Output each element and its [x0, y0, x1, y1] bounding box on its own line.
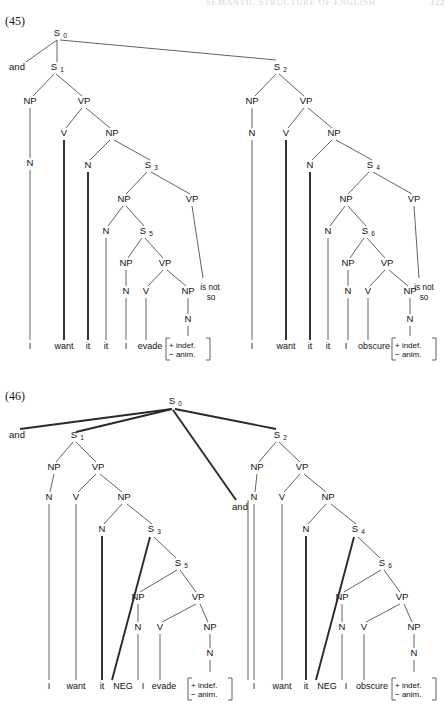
edge-NPobj-N-46-right	[308, 504, 326, 524]
node-NP-S3-45: NP	[117, 193, 130, 204]
node-NP-S2-45: NP	[245, 95, 258, 106]
featmatrix-row1-46-left: + indef.	[191, 681, 217, 690]
terminal-it-2-45: it	[104, 341, 109, 351]
node-NP-S1-45: NP	[23, 95, 36, 106]
node-VP-S5-46: VP	[192, 591, 205, 602]
terminal-it-1-45: it	[86, 341, 91, 351]
edge-NPobj-S4-46	[331, 504, 356, 524]
node-NP-obj-S2-45: NP	[327, 127, 340, 138]
edge-VPS6-NP	[389, 270, 408, 286]
terminal-obscure-45: obscure	[358, 341, 390, 351]
terminal-and-middle-46: and	[232, 501, 248, 512]
node-S5-45: S	[140, 225, 146, 236]
edge-NPobj-N-left	[90, 140, 110, 160]
edge-S3-NP	[126, 172, 147, 194]
node-S5-46: S	[175, 557, 181, 568]
node-N-I2-46-right: N	[339, 621, 346, 632]
node-S1-46: S	[71, 429, 77, 440]
node-V-obscure-46: V	[361, 621, 368, 632]
terminal-so-left-45: so	[207, 293, 216, 302]
terminal-I-1-right-45: I	[251, 341, 254, 351]
terminal-evade-45: evade	[138, 341, 163, 351]
edge-S4-NEG-46	[316, 537, 354, 680]
node-VP-S6-45: VP	[381, 257, 394, 268]
node-NP-S5-46: NP	[131, 591, 144, 602]
node-S6-subscript-45: 6	[371, 230, 375, 237]
terminal-I-1-45: I	[29, 341, 32, 351]
node-N-feat-46-right: N	[411, 647, 418, 658]
node-V-want-right-45: V	[283, 127, 290, 138]
featmatrix-bracket-left-close-45	[206, 338, 210, 360]
node-S3-45: S	[145, 159, 151, 170]
edge-VP-V-46-right	[284, 474, 300, 492]
edge-S4-S6-46	[358, 537, 380, 558]
node-NP-evadeobj-46: NP	[203, 621, 216, 632]
terminal-it-2-right-45: it	[326, 341, 331, 351]
node-NP-S4-45: NP	[339, 193, 352, 204]
edge-S5-NP	[128, 238, 142, 258]
node-V-obscure-45: V	[365, 285, 372, 296]
node-S0-45: S	[54, 27, 60, 38]
node-N-subj-46-left: N	[46, 491, 53, 502]
edge-S2-VP	[279, 74, 304, 96]
terminal-want-right-45: want	[275, 341, 296, 351]
node-V-want-45: V	[61, 127, 68, 138]
node-V-evade-46: V	[157, 621, 164, 632]
node-S2-45: S	[274, 61, 280, 72]
node-N-it-45: N	[85, 159, 92, 170]
node-VP-S6-46: VP	[396, 591, 409, 602]
terminal-I-2-46-right: I	[345, 681, 348, 691]
node-S0-subscript-46: 0	[178, 400, 182, 407]
node-S2-subscript-45: 2	[283, 66, 287, 73]
node-N-it-46-left: N	[99, 523, 106, 534]
edge-S3-VP	[151, 172, 190, 194]
node-N-S2-subj-45: N	[249, 127, 256, 138]
terminal-and-left-46: and	[9, 429, 25, 440]
terminal-so-right-45: so	[420, 293, 429, 302]
edge-VP-V-right1	[288, 108, 304, 128]
node-NP-S2-46: NP	[250, 461, 263, 472]
node-S6-subscript-46: 6	[388, 562, 392, 569]
featmatrix-row2-46-right: − anim.	[395, 690, 421, 699]
node-VP-S4-45: VP	[408, 193, 421, 204]
terminal-want-1-45: want	[53, 341, 74, 351]
edge-S5-NP-46	[140, 570, 177, 592]
edge-S0-and-left-46	[20, 409, 172, 429]
terminal-want-46-left: want	[65, 681, 86, 691]
terminal-obscure-46: obscure	[356, 681, 388, 691]
edge-VP-NP-46-left	[100, 474, 122, 492]
node-S5-subscript-45: 5	[149, 230, 153, 237]
edge-S6-VP-46	[384, 570, 400, 592]
node-V-want-46-right: V	[279, 491, 286, 502]
edge-S6-NP	[350, 238, 364, 258]
edge-NPS4-S6	[348, 206, 366, 226]
node-V-want-46-left: V	[73, 491, 80, 502]
node-S2-subscript-46: 2	[283, 434, 287, 441]
node-N-S1-subj-45: N	[27, 157, 34, 168]
edge-VPS5-NP-46	[200, 604, 208, 622]
edge-NPobj-N-46-left	[104, 504, 122, 524]
terminal-it-46-left: it	[100, 681, 105, 691]
node-S6-45: S	[362, 225, 368, 236]
node-NP-obj-46-right: NP	[321, 491, 334, 502]
edge-VPS5-NP	[167, 270, 186, 286]
edge-S5-VP-46	[180, 570, 196, 592]
featmatrix-row1-right-45: + indef.	[395, 341, 421, 350]
terminal-I-2-46-left: I	[142, 681, 145, 691]
terminal-want-46-right: want	[271, 681, 292, 691]
edge-VP-NP-left1	[86, 108, 110, 128]
featmatrix-row1-46-right: + indef.	[395, 681, 421, 690]
edge-S0-and-middle-46	[173, 410, 236, 500]
edge-VP-NP-46-right	[304, 474, 326, 492]
edge-S0-S2	[60, 40, 276, 60]
node-N-it2-45: N	[103, 225, 110, 236]
node-NP-evadeobj-45: NP	[181, 285, 194, 296]
node-VP-S1-46: VP	[92, 461, 105, 472]
node-S1-subscript-46: 1	[80, 434, 84, 441]
edge-S5-VP	[145, 238, 163, 258]
node-S3-subscript-45: 3	[154, 164, 158, 171]
node-VP-S3-45: VP	[186, 193, 199, 204]
edge-S4-NP	[348, 172, 369, 194]
node-NP-S6-46: NP	[335, 591, 348, 602]
node-S4-subscript-46: 4	[361, 528, 365, 535]
